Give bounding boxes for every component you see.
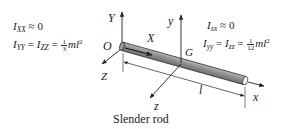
label-z: z xyxy=(154,100,159,112)
subscript: ZZ xyxy=(40,43,48,52)
operator: = xyxy=(52,38,58,50)
label-G: G xyxy=(185,46,193,58)
left-equation-Ixx: IXX ≈ 0 xyxy=(13,20,43,36)
subscript: zz xyxy=(229,42,235,51)
left-equation-Iyy-Izz: IYY = IZZ = 13ml2 xyxy=(13,36,82,54)
subscript: XX xyxy=(17,25,26,34)
operator: = xyxy=(237,37,243,49)
slender-rod-diagram xyxy=(0,0,299,129)
label-y: y xyxy=(168,15,173,27)
value: 0 xyxy=(229,19,235,31)
denominator: 12 xyxy=(247,45,254,51)
value: 0 xyxy=(37,20,43,32)
fraction: 112 xyxy=(247,38,254,51)
operator: ≈ xyxy=(220,19,226,31)
x-axis xyxy=(248,82,264,86)
label-X: X xyxy=(147,32,154,44)
subscript: YY xyxy=(17,43,25,52)
superscript: 2 xyxy=(266,37,270,45)
label-Z: Z xyxy=(101,70,107,82)
operator: ≈ xyxy=(29,20,35,32)
label-x: x xyxy=(253,91,258,103)
ml-term: ml xyxy=(255,37,266,49)
ml-term: ml xyxy=(68,38,79,50)
label-length-l: l xyxy=(199,84,202,96)
subscript: xx xyxy=(211,24,218,33)
subscript: yy xyxy=(207,42,214,51)
operator: = xyxy=(216,37,222,49)
denominator: 3 xyxy=(61,46,67,52)
superscript: 2 xyxy=(79,38,83,46)
label-origin-O: O xyxy=(103,40,112,52)
figure-caption: Slender rod xyxy=(113,113,169,125)
fraction: 13 xyxy=(61,39,67,52)
z-axis xyxy=(150,64,181,98)
operator: = xyxy=(28,38,34,50)
right-equation-ixx: Ixx ≈ 0 xyxy=(207,19,234,35)
right-equation-iyy-izz: Iyy = Izz = 112ml2 xyxy=(203,35,270,53)
label-Y: Y xyxy=(108,12,115,24)
